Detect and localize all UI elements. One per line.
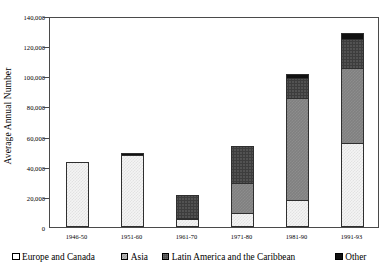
bar-1946-50	[66, 162, 89, 227]
bar-segment-europe	[231, 213, 254, 227]
y-tick-label: 0	[5, 225, 45, 232]
x-tick-label: 1991-93	[341, 233, 362, 240]
legend-label: Other	[345, 252, 366, 262]
bar-segment-latin	[286, 78, 309, 99]
chart-legend: Europe and CanadaAsiaLatin America and t…	[12, 250, 378, 263]
x-tick-label: 1961-70	[176, 233, 197, 240]
bar-segment-europe	[286, 200, 309, 227]
bar-segment-asia	[341, 68, 364, 143]
legend-item-europe[interactable]: Europe and Canada	[12, 252, 95, 262]
bar-segment-europe	[341, 143, 364, 227]
y-tick-label: 60,000	[5, 134, 45, 141]
bar-segment-latin	[231, 146, 254, 184]
y-tick-label: 100,000	[5, 74, 45, 81]
legend-label: Latin America and the Caribbean	[172, 252, 295, 262]
bar-1971-80	[231, 144, 254, 227]
x-tick-label: 1981-90	[286, 233, 307, 240]
bar-segment-latin	[176, 195, 199, 219]
x-tick-label: 1946-50	[66, 233, 87, 240]
y-tick-label: 80,000	[5, 104, 45, 111]
bar-segment-asia	[231, 183, 254, 215]
legend-label: Europe and Canada	[22, 252, 95, 262]
y-tick-label: 20,000	[5, 194, 45, 201]
x-tick-label: 1951-60	[121, 233, 142, 240]
bar-segment-latin	[341, 39, 364, 69]
legend-swatch-latin-icon	[162, 253, 170, 261]
legend-swatch-europe-icon	[12, 253, 20, 261]
bar-1981-90	[286, 71, 309, 227]
legend-swatch-other-icon	[335, 253, 343, 261]
plot-area	[49, 17, 379, 228]
legend-swatch-asia-icon	[121, 253, 129, 261]
x-tick-label: 1971-80	[231, 233, 252, 240]
legend-item-other[interactable]: Other	[335, 252, 366, 262]
bar-1951-60	[121, 152, 144, 227]
y-tick-label: 120,000	[5, 44, 45, 51]
y-tick-label: 40,000	[5, 164, 45, 171]
bar-segment-asia	[286, 98, 309, 200]
legend-item-asia[interactable]: Asia	[121, 252, 148, 262]
bar-segment-europe	[66, 162, 89, 227]
bar-segment-europe	[176, 219, 199, 227]
y-axis-title-text: Average Annual Number	[3, 68, 13, 165]
bar-segment-europe	[121, 155, 144, 227]
chart-container: Average Annual Number 020,00040,00060,00…	[0, 0, 385, 266]
bar-1991-93	[341, 30, 364, 227]
y-tick-label: 140,000	[5, 14, 45, 21]
legend-label: Asia	[131, 252, 148, 262]
bar-1961-70	[176, 194, 199, 227]
legend-item-latin[interactable]: Latin America and the Caribbean	[162, 252, 295, 262]
